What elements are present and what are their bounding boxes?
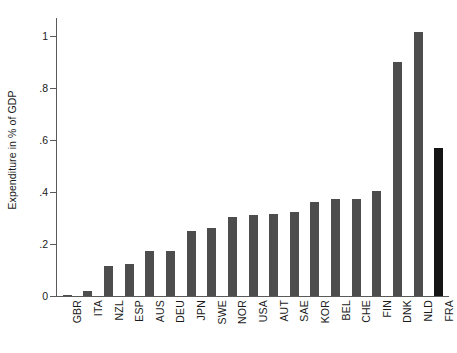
bar-rect [269, 214, 278, 296]
bar-fin [372, 191, 381, 296]
y-tick-0 [50, 296, 57, 297]
bar-jpn [187, 231, 196, 296]
y-tick-p8 [50, 88, 57, 89]
y-tick-label: .2 [0, 238, 48, 250]
y-tick-label: .6 [0, 134, 48, 146]
bar-rect [331, 199, 340, 296]
x-tick-label-bel: BEL [340, 300, 352, 320]
bar-deu [166, 251, 175, 296]
bar-rect [290, 212, 299, 296]
bar-rect [393, 62, 402, 296]
bar-che [352, 199, 361, 296]
x-tick-label-esp: ESP [133, 300, 145, 322]
x-tick-label-gbr: GBR [71, 300, 83, 323]
bar-gbr [63, 295, 72, 296]
bar-fra [434, 148, 443, 296]
x-tick-label-kor: KOR [319, 300, 331, 323]
y-tick-label: 0 [0, 290, 48, 302]
y-tick-label: 1 [0, 30, 48, 42]
x-tick-label-usa: USA [257, 300, 269, 322]
y-axis-line [56, 18, 57, 297]
bar-aus [145, 251, 154, 296]
bar-rect [104, 266, 113, 296]
bar-ita [83, 291, 92, 296]
bar-rect [187, 231, 196, 296]
bar-esp [125, 264, 134, 296]
x-tick-label-nzl: NZL [113, 300, 125, 320]
bar-rect [352, 199, 361, 296]
bar-rect [145, 251, 154, 296]
bar-rect [372, 191, 381, 296]
bar-rect [414, 32, 423, 296]
bar-rect [63, 295, 72, 296]
x-tick-label-fin: FIN [381, 300, 393, 318]
bar-rect [207, 228, 216, 296]
bar-rect [310, 202, 319, 296]
y-tick-p4 [50, 192, 57, 193]
x-tick-label-nld: NLD [422, 300, 434, 322]
y-tick-label: .4 [0, 186, 48, 198]
x-tick-label-nor: NOR [236, 300, 248, 324]
bar-nor [228, 217, 237, 296]
bar-rect [83, 291, 92, 296]
x-axis-line [56, 296, 449, 297]
bar-rect [125, 264, 134, 296]
bar-rect [249, 215, 258, 296]
bar-rect [166, 251, 175, 296]
bar-rect [434, 148, 443, 296]
x-tick-label-jpn: JPN [195, 300, 207, 320]
bar-dnk [393, 62, 402, 296]
y-tick-p2 [50, 244, 57, 245]
bar-usa [249, 215, 258, 296]
x-tick-label-aus: AUS [154, 300, 166, 322]
x-tick-label-swe: SWE [216, 300, 228, 325]
bar-aut [269, 214, 278, 296]
y-axis-title: Expenditure in % of GDP [0, 0, 24, 300]
bar-nzl [104, 266, 113, 296]
bar-sae [290, 212, 299, 296]
y-tick-p6 [50, 140, 57, 141]
x-tick-label-fra: FRA [443, 300, 455, 322]
bar-bel [331, 199, 340, 296]
y-tick-label: .8 [0, 82, 48, 94]
bar-swe [207, 228, 216, 296]
bar-kor [310, 202, 319, 296]
y-tick-1 [50, 36, 57, 37]
x-tick-label-che: CHE [360, 300, 372, 323]
x-tick-label-deu: DEU [174, 300, 186, 323]
bar-rect [228, 217, 237, 296]
bar-nld [414, 32, 423, 296]
bar-chart: Expenditure in % of GDP 0.2.4.6.81 GBRIT… [0, 0, 457, 353]
x-tick-label-sae: SAE [298, 300, 310, 322]
x-tick-label-ita: ITA [92, 300, 104, 316]
x-tick-label-dnk: DNK [401, 300, 413, 323]
x-tick-label-aut: AUT [278, 300, 290, 322]
